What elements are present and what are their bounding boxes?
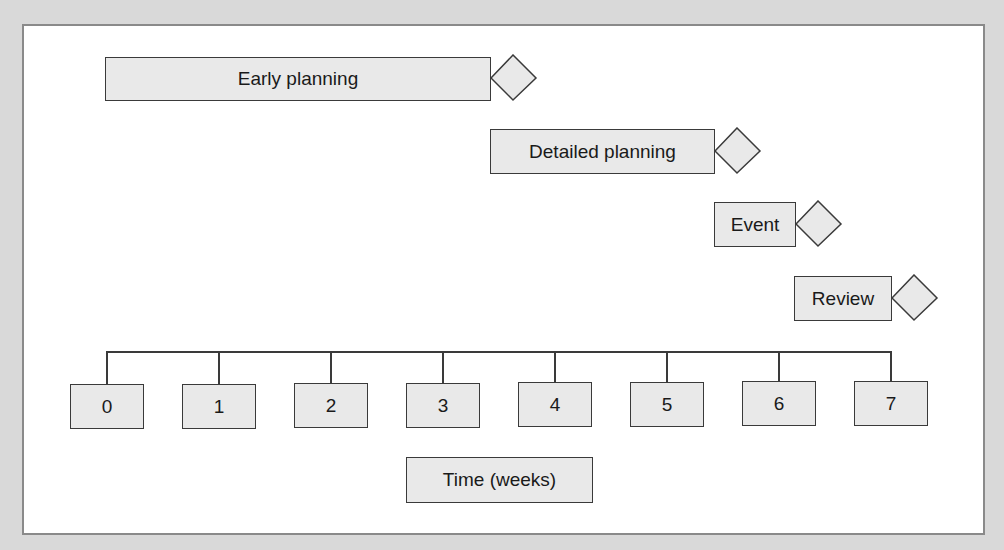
tick-label: 2 (326, 395, 337, 417)
tick-label: 6 (774, 393, 785, 415)
tick-label: 4 (550, 394, 561, 416)
week-tick-7: 7 (854, 381, 928, 426)
axis-tick-line (106, 351, 108, 384)
task-label: Review (812, 288, 874, 310)
task-label: Early planning (238, 68, 358, 90)
axis-tick-line (554, 351, 556, 383)
task-bar-early-planning: Early planning (105, 57, 491, 101)
tick-label: 3 (438, 395, 449, 417)
axis-tick-line (890, 351, 892, 382)
axis-tick-line (778, 351, 780, 382)
task-label: Detailed planning (529, 141, 676, 163)
milestone-diamond-icon (490, 54, 538, 102)
tick-label: 1 (214, 396, 225, 418)
milestone-diamond-icon (891, 274, 939, 322)
axis-label-box: Time (weeks) (406, 457, 593, 503)
axis-label: Time (weeks) (443, 469, 556, 491)
week-tick-3: 3 (406, 383, 480, 428)
task-bar-detailed-planning: Detailed planning (490, 129, 715, 174)
task-bar-review: Review (794, 276, 892, 321)
axis-horizontal-line (106, 351, 892, 353)
axis-tick-line (330, 351, 332, 384)
week-tick-6: 6 (742, 381, 816, 426)
axis-tick-line (218, 351, 220, 384)
task-bar-event: Event (714, 202, 796, 247)
tick-label: 0 (102, 396, 113, 418)
week-tick-4: 4 (518, 382, 592, 427)
week-tick-0: 0 (70, 384, 144, 429)
tick-label: 5 (662, 394, 673, 416)
axis-tick-line (666, 351, 668, 383)
tick-label: 7 (886, 393, 897, 415)
axis-tick-line (442, 351, 444, 384)
milestone-diamond-icon (714, 127, 762, 175)
week-tick-1: 1 (182, 384, 256, 429)
week-tick-5: 5 (630, 382, 704, 427)
week-tick-2: 2 (294, 383, 368, 428)
milestone-diamond-icon (795, 200, 843, 248)
task-label: Event (731, 214, 780, 236)
